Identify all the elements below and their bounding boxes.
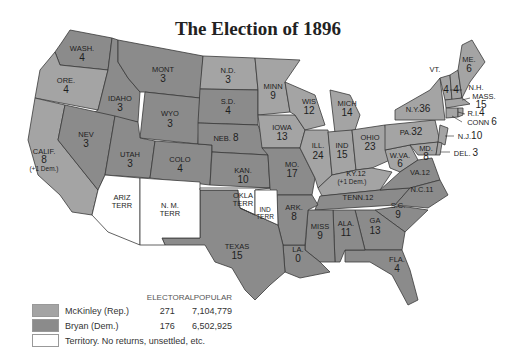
svg-text:0: 0 xyxy=(295,253,301,264)
svg-text:8: 8 xyxy=(291,211,297,222)
label-ind-terr: IND xyxy=(259,206,271,213)
label-nj: N.J.10 xyxy=(458,130,483,141)
svg-text:4: 4 xyxy=(79,52,85,63)
mckinley-swatch xyxy=(32,304,59,317)
legend-row-bryan: Bryan (Dem.) 176 6,502,925 xyxy=(32,318,232,333)
svg-text:12: 12 xyxy=(303,105,315,116)
label-nh: N.H. xyxy=(469,83,484,92)
label-tenn: TENN.12 xyxy=(343,193,374,202)
svg-text:13: 13 xyxy=(276,131,288,142)
svg-text:(+1 Dem.): (+1 Dem.) xyxy=(29,165,58,173)
label-nc: N.C.11 xyxy=(411,185,434,194)
svg-text:23: 23 xyxy=(364,141,376,152)
label-pa: PA.32 xyxy=(400,126,423,137)
svg-text:8: 8 xyxy=(423,151,429,162)
svg-text:17: 17 xyxy=(286,168,298,179)
label-ga: GA xyxy=(370,216,381,225)
svg-text:9: 9 xyxy=(270,90,276,101)
territory-swatch xyxy=(32,334,59,347)
label-ill: ILL. xyxy=(312,141,325,150)
svg-text:4: 4 xyxy=(394,263,400,274)
label-ky: KY.12 xyxy=(346,169,365,178)
svg-text:3: 3 xyxy=(117,102,123,113)
legend: ELECTORAL POPULAR McKinley (Rep.) 271 7,… xyxy=(32,292,232,348)
label-del: DEL. 3 xyxy=(454,147,479,158)
label-ri: R.I.4 xyxy=(467,107,485,118)
legend-row-territory: Territory. No returns, unsettled, etc. xyxy=(32,333,232,348)
svg-text:TERR: TERR xyxy=(256,213,274,220)
label-vt: VT. xyxy=(430,65,441,74)
svg-text:8: 8 xyxy=(41,154,47,165)
svg-text:3: 3 xyxy=(83,138,89,149)
svg-text:3: 3 xyxy=(225,74,231,85)
svg-text:3: 3 xyxy=(127,158,133,169)
svg-text:14: 14 xyxy=(341,107,353,118)
legend-header-electoral: ELECTORAL xyxy=(147,293,187,302)
state-massachusetts[interactable] xyxy=(445,98,470,108)
label-ny: N.Y.36 xyxy=(406,103,431,114)
svg-text:6: 6 xyxy=(397,158,403,169)
svg-text:4: 4 xyxy=(225,105,231,116)
svg-text:24: 24 xyxy=(312,150,324,161)
svg-text:13: 13 xyxy=(369,225,381,236)
svg-text:4: 4 xyxy=(63,84,69,95)
svg-text:4: 4 xyxy=(443,84,449,95)
svg-text:3: 3 xyxy=(167,118,173,129)
label-va: VA.12 xyxy=(410,168,430,177)
svg-text:11: 11 xyxy=(341,227,352,238)
svg-text:(+1 Dem.): (+1 Dem.) xyxy=(337,178,366,186)
svg-text:4: 4 xyxy=(177,163,183,174)
legend-header-popular: POPULAR xyxy=(187,293,232,302)
label-neb: NEB. 8 xyxy=(213,132,239,143)
legend-row-mckinley: McKinley (Rep.) 271 7,104,779 xyxy=(32,303,232,318)
svg-text:15: 15 xyxy=(231,250,243,261)
bryan-swatch xyxy=(32,319,59,332)
svg-text:9: 9 xyxy=(395,209,401,220)
label-conn: CONN 6 xyxy=(467,116,497,127)
svg-text:TERR: TERR xyxy=(112,201,133,210)
svg-text:15: 15 xyxy=(336,149,348,160)
svg-text:TERR: TERR xyxy=(233,199,254,208)
state-florida[interactable] xyxy=(345,250,418,305)
svg-text:3: 3 xyxy=(160,73,166,84)
state-connecticut[interactable] xyxy=(446,108,458,118)
label-wyo: WYO xyxy=(161,109,179,118)
svg-text:6: 6 xyxy=(466,63,472,74)
svg-text:TERR: TERR xyxy=(160,209,181,218)
svg-text:9: 9 xyxy=(317,230,323,241)
svg-text:4: 4 xyxy=(453,84,459,95)
svg-text:10: 10 xyxy=(237,174,249,185)
